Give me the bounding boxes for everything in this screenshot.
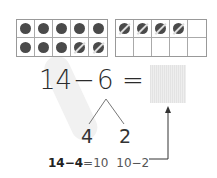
step1-left: 14−4 <box>48 156 83 170</box>
step1-right: =10 <box>83 156 108 170</box>
bond-and-arrow-lines <box>0 0 217 178</box>
arrow-up-icon <box>165 106 171 113</box>
bond-part-left: 4 <box>81 125 93 147</box>
bond-part-right: 2 <box>119 125 131 147</box>
solution-steps: 14−4=10 10−2 <box>48 156 149 170</box>
step2: 10−2 <box>116 156 149 170</box>
